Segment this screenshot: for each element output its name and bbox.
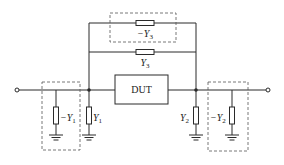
neg-y3-resistor: [136, 21, 154, 26]
ground-icon: [49, 135, 63, 140]
input-terminal: [15, 88, 19, 92]
ground-icon: [225, 135, 239, 140]
y2-resistor: [194, 107, 199, 124]
dut-label: DUT: [131, 84, 152, 95]
y2-label: Y2: [180, 112, 190, 125]
y3-resistor: [136, 50, 154, 55]
neg-y1-resistor: [54, 107, 59, 124]
neg-y2-label: −Y2: [210, 112, 226, 125]
y1-label: Y1: [93, 112, 103, 125]
neg-y3-label: −Y3: [137, 28, 153, 41]
ground-icon: [189, 135, 203, 140]
ground-icon: [82, 135, 96, 140]
circuit-diagram: DUT −Y3 Y3 −Y1 Y1 Y2: [0, 0, 284, 165]
y3-label: Y3: [140, 57, 150, 70]
neg-y2-resistor: [230, 107, 235, 124]
output-terminal: [266, 88, 270, 92]
y1-resistor: [87, 107, 92, 124]
neg-y1-label: −Y1: [60, 112, 76, 125]
